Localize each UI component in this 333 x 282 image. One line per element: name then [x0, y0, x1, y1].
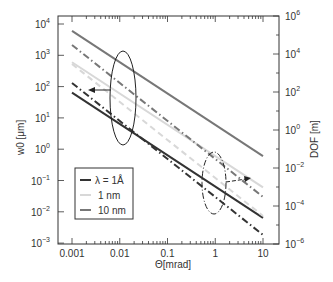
- y-right-tick-label: 10−2: [285, 161, 304, 174]
- legend-label-1: λ = 1Å: [95, 174, 124, 186]
- left-arrow-head: [88, 87, 95, 93]
- x-tick-label: 0.01: [110, 248, 130, 259]
- y-left-tick-label: 102: [35, 80, 50, 93]
- legend-label-3: 10 nm: [98, 205, 126, 216]
- chart: 0.0010.010.111010410310210110010−110−210…: [0, 0, 333, 282]
- legend: λ = 1Å 1 nm 10 nm: [75, 168, 133, 219]
- x-tick-label: 0.1: [161, 248, 175, 259]
- series-line-0: [72, 31, 263, 156]
- y-left-tick-label: 10−2: [31, 205, 50, 218]
- y-left-tick-label: 100: [35, 142, 50, 155]
- y-right-tick-label: 106: [285, 9, 300, 22]
- y-left-tick-label: 103: [35, 48, 50, 61]
- y-left-tick-label: 104: [35, 17, 50, 30]
- x-tick-label: 10: [257, 248, 269, 259]
- y-right-tick-label: 104: [285, 47, 300, 60]
- y-right-axis-label: DOF [m]: [309, 120, 320, 158]
- y-right-tick-label: 102: [285, 85, 300, 98]
- x-tick-label: 0.001: [59, 248, 84, 259]
- x-axis-label: Θ[mrad]: [155, 259, 191, 270]
- axes: 0.0010.010.111010410310210110010−110−210…: [31, 9, 304, 259]
- y-right-tick-label: 10−4: [285, 199, 304, 212]
- y-left-tick-label: 10−3: [31, 236, 50, 249]
- y-left-tick-label: 10−1: [31, 174, 50, 187]
- y-left-tick-label: 101: [35, 111, 50, 124]
- x-tick-label: 1: [212, 248, 218, 259]
- y-left-axis-label: w0 [μm]: [15, 120, 26, 156]
- y-right-tick-label: 10−6: [285, 237, 304, 250]
- y-right-tick-label: 100: [285, 123, 300, 136]
- legend-label-2: 1 nm: [98, 190, 120, 201]
